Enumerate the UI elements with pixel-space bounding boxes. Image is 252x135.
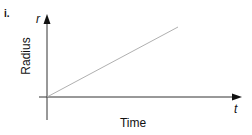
x-axis-title: Time: [120, 116, 147, 130]
x-axis-symbol: t: [234, 102, 238, 116]
y-axis-symbol: r: [36, 12, 41, 26]
radius-time-line: [47, 27, 178, 97]
part-label: i.: [4, 8, 10, 19]
x-axis-arrow-icon: [232, 94, 242, 101]
diagram-canvas: i. r t Radius Time: [0, 0, 252, 135]
y-axis-title: Radius: [19, 37, 33, 74]
y-axis-arrow-icon: [44, 14, 51, 24]
